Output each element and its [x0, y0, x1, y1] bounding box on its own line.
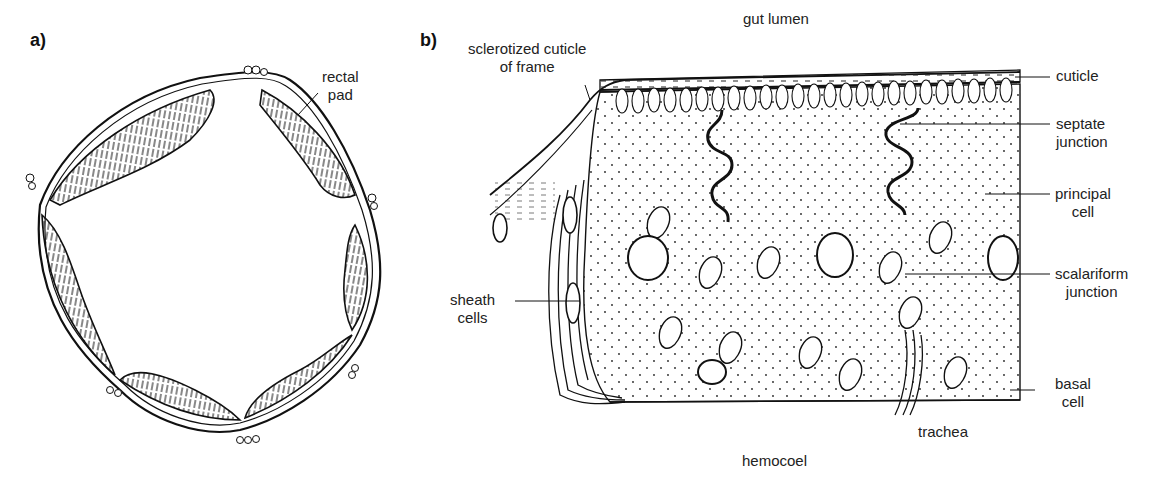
label-septate-junction: septate junction	[1056, 115, 1108, 151]
panel-b-tag: b)	[420, 30, 437, 51]
label-line: junction	[1056, 133, 1108, 151]
label-line: pad	[322, 86, 359, 104]
label-sclerotized-cuticle: sclerotized cuticle of frame	[468, 40, 586, 76]
rectal-pad-section	[490, 70, 1050, 415]
label-line: cell	[1055, 203, 1111, 221]
label-principal-cell: principal cell	[1055, 185, 1111, 221]
label-line: of frame	[468, 58, 586, 76]
label-basal-cell: basal cell	[1055, 375, 1091, 411]
label-line: scalariform	[1055, 265, 1128, 283]
label-line: junction	[1055, 283, 1128, 301]
label-sheath-cells: sheath cells	[450, 291, 495, 327]
label-line: rectal	[322, 68, 359, 86]
rectal-pad-bottom-right	[245, 335, 352, 418]
label-hemocoel: hemocoel	[742, 452, 807, 470]
label-line: principal	[1055, 185, 1111, 203]
panel-a-tag: a)	[30, 30, 46, 51]
label-line: cell	[1055, 393, 1091, 411]
label-scalariform-junction: scalariform junction	[1055, 265, 1128, 301]
rectum-cross-section	[26, 66, 380, 444]
rectal-pad-left	[42, 215, 115, 375]
label-trachea: trachea	[918, 423, 968, 441]
label-cuticle: cuticle	[1056, 67, 1099, 85]
label-line: basal	[1055, 375, 1091, 393]
label-line: sclerotized cuticle	[468, 40, 586, 58]
rectal-pad-right	[344, 225, 368, 330]
label-rectal-pad: rectal pad	[322, 68, 359, 104]
label-line: septate	[1056, 115, 1108, 133]
label-gut-lumen: gut lumen	[743, 10, 809, 28]
label-line: sheath	[450, 291, 495, 309]
label-line: cells	[450, 309, 495, 327]
